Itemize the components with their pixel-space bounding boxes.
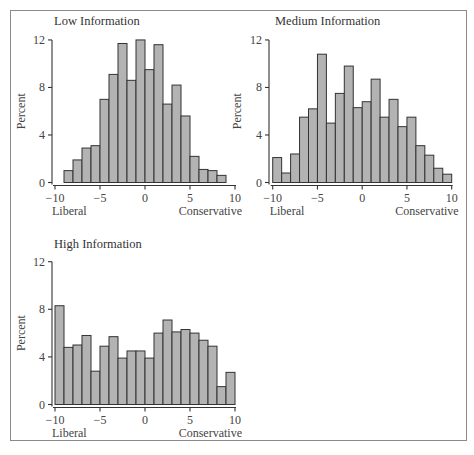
- y-tick-label: 12: [33, 255, 45, 269]
- y-tick-label: 0: [39, 398, 45, 412]
- y-axis-label: Percent: [14, 93, 28, 130]
- histogram-bar: [273, 158, 282, 183]
- histogram-bar: [64, 347, 73, 404]
- histogram-bar: [109, 74, 118, 182]
- histogram-panel-high-information: High Information04812−10−50510LiberalCon…: [14, 237, 242, 440]
- x-tick-label: 0: [142, 413, 148, 427]
- x-label-liberal: Liberal: [52, 426, 87, 440]
- histogram-bar: [100, 99, 109, 182]
- panel-title: Low Information: [54, 14, 140, 28]
- histogram-bar: [136, 40, 145, 183]
- histogram-bar: [172, 332, 181, 405]
- histogram-bar: [136, 351, 145, 405]
- histogram-bar: [190, 333, 199, 404]
- x-tick-label: 0: [142, 191, 148, 205]
- histogram-bar: [109, 337, 118, 405]
- histogram-bar: [380, 117, 389, 182]
- x-tick-label: 10: [446, 191, 458, 205]
- histogram-bar: [154, 333, 163, 404]
- x-label-liberal: Liberal: [270, 204, 305, 218]
- histogram-bar: [300, 117, 309, 182]
- histogram-bar: [335, 93, 344, 182]
- histogram-bar: [217, 175, 226, 182]
- histogram-bar: [353, 108, 362, 183]
- x-label-conservative: Conservative: [395, 204, 458, 218]
- y-tick-label: 4: [256, 128, 262, 142]
- y-tick-label: 12: [250, 33, 262, 47]
- histogram-bar: [317, 54, 326, 182]
- histogram-bar: [73, 160, 82, 183]
- histogram-bar: [291, 154, 300, 183]
- histogram-bar: [73, 345, 82, 405]
- histogram-bar: [208, 346, 217, 404]
- histogram-figure: Low Information04812−10−50510LiberalCons…: [0, 0, 474, 455]
- x-tick-label: −10: [46, 413, 65, 427]
- histogram-bar: [407, 117, 416, 182]
- x-tick-label: −5: [311, 191, 324, 205]
- histogram-bar: [217, 387, 226, 405]
- histogram-bar: [127, 351, 136, 405]
- histogram-bar: [309, 109, 318, 183]
- histogram-bar: [64, 171, 73, 183]
- x-label-conservative: Conservative: [179, 426, 242, 440]
- x-tick-label: 10: [229, 413, 241, 427]
- y-axis-label: Percent: [14, 314, 28, 351]
- histogram-bar: [82, 335, 91, 404]
- y-tick-label: 0: [256, 176, 262, 190]
- histogram-bar: [389, 99, 398, 182]
- histogram-bar: [154, 45, 163, 183]
- x-tick-label: −10: [46, 191, 65, 205]
- histogram-bar: [181, 116, 190, 183]
- histogram-bar: [398, 127, 407, 183]
- histogram-bar: [434, 168, 443, 182]
- x-tick-label: −5: [94, 191, 107, 205]
- histogram-bar: [163, 320, 172, 404]
- histogram-bar: [127, 80, 136, 182]
- histogram-bar: [181, 330, 190, 405]
- histogram-bar: [100, 346, 109, 404]
- histogram-bar: [118, 358, 127, 404]
- histogram-bar: [199, 340, 208, 404]
- histogram-bar: [371, 79, 380, 182]
- histogram-bar: [344, 66, 353, 182]
- panel-title: High Information: [54, 237, 143, 251]
- x-tick-label: −5: [94, 413, 107, 427]
- histogram-bar: [190, 156, 199, 182]
- histogram-bar: [145, 70, 154, 183]
- y-tick-label: 8: [256, 80, 262, 94]
- y-tick-label: 4: [39, 128, 45, 142]
- y-tick-label: 8: [39, 80, 45, 94]
- histogram-bar: [91, 146, 100, 183]
- x-tick-label: −10: [263, 191, 282, 205]
- histogram-bar: [416, 146, 425, 183]
- panel-title: Medium Information: [275, 14, 381, 28]
- histogram-panel-low-information: Low Information04812−10−50510LiberalCons…: [14, 14, 242, 218]
- y-tick-label: 0: [39, 176, 45, 190]
- y-axis-label: Percent: [230, 93, 244, 130]
- histogram-bar: [226, 372, 235, 404]
- histogram-bar: [425, 155, 434, 182]
- x-tick-label: 0: [359, 191, 365, 205]
- histogram-bar: [82, 148, 91, 182]
- histogram-bar: [362, 102, 371, 183]
- histogram-bar: [199, 169, 208, 182]
- x-label-liberal: Liberal: [52, 204, 87, 218]
- histogram-bar: [145, 358, 154, 404]
- y-tick-label: 4: [39, 350, 45, 364]
- histogram-bar: [118, 44, 127, 183]
- histogram-panel-medium-information: Medium Information04812−10−50510LiberalC…: [230, 14, 459, 218]
- x-tick-label: 5: [404, 191, 410, 205]
- histogram-bar: [172, 85, 181, 182]
- x-tick-label: 10: [229, 191, 241, 205]
- x-tick-label: 5: [187, 413, 193, 427]
- x-label-conservative: Conservative: [179, 204, 242, 218]
- histogram-bar: [163, 104, 172, 182]
- x-tick-label: 5: [187, 191, 193, 205]
- histogram-bar: [55, 306, 64, 405]
- y-tick-label: 8: [39, 302, 45, 316]
- histogram-bar: [443, 174, 452, 182]
- histogram-bar: [326, 123, 335, 182]
- y-tick-label: 12: [33, 33, 45, 47]
- histogram-bar: [208, 171, 217, 183]
- histogram-bar: [282, 173, 291, 183]
